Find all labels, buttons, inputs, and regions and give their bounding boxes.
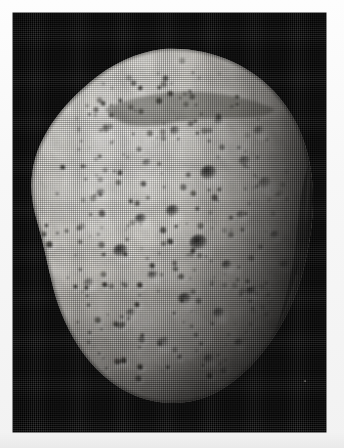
celestial-body-image [13,13,326,432]
screenshot-root [0,0,344,448]
photo-plate [13,13,326,432]
cratered-body-svg [13,13,326,432]
dust-speck [304,380,306,382]
